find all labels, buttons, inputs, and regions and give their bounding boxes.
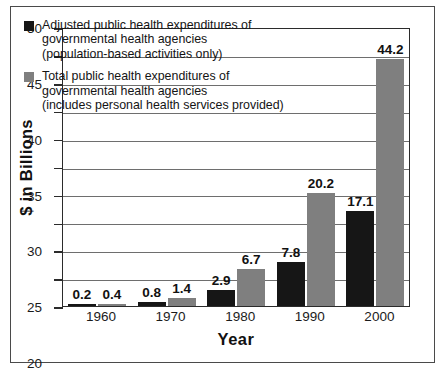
legend-swatch-icon bbox=[24, 72, 34, 82]
x-axis-tick-label: 1970 bbox=[156, 309, 186, 324]
y-axis-tick: 5 bbox=[54, 279, 63, 281]
x-axis-tick-label: 1980 bbox=[225, 309, 255, 324]
y-axis-tick: 25 bbox=[54, 168, 63, 170]
bar[interactable]: 0.8 bbox=[138, 302, 166, 306]
legend-label: Total public health expenditures ofgover… bbox=[42, 69, 284, 112]
bar-value-label: 1.4 bbox=[172, 281, 191, 296]
bar[interactable]: 6.7 bbox=[237, 269, 265, 306]
legend-entry[interactable]: Adjusted public health expenditures ofgo… bbox=[24, 18, 324, 61]
bar-value-label: 17.1 bbox=[347, 194, 373, 209]
y-axis-tick-label: 25 bbox=[27, 300, 42, 315]
bar[interactable]: 2.9 bbox=[207, 290, 235, 306]
y-axis-tick-label: 20 bbox=[27, 356, 42, 371]
bar[interactable]: 7.8 bbox=[277, 262, 305, 306]
y-axis-tick: 20 bbox=[54, 196, 63, 198]
bar-value-label: 2.9 bbox=[212, 273, 231, 288]
legend-label-line: (includes personal health services provi… bbox=[42, 98, 284, 112]
bar-value-label: 0.8 bbox=[142, 285, 161, 300]
bar[interactable]: 44.2 bbox=[376, 59, 404, 306]
legend-entry[interactable]: Total public health expenditures ofgover… bbox=[24, 69, 324, 112]
x-axis-tick-label: 1960 bbox=[86, 309, 116, 324]
bar-value-label: 20.2 bbox=[308, 176, 334, 191]
legend-label-line: (population-based activities only) bbox=[42, 47, 251, 61]
bar-value-label: 0.2 bbox=[73, 287, 92, 302]
chart-legend: Adjusted public health expenditures ofgo… bbox=[24, 18, 324, 120]
y-axis-tick-label: 30 bbox=[27, 244, 42, 259]
y-axis-tick-label: 40 bbox=[27, 132, 42, 147]
y-axis-tick: 30 bbox=[54, 140, 63, 142]
bar-value-label: 6.7 bbox=[242, 252, 261, 267]
bar-value-label: 7.8 bbox=[281, 245, 300, 260]
bar-value-label: 0.4 bbox=[103, 287, 122, 302]
legend-label-line: Adjusted public health expenditures of bbox=[42, 18, 251, 32]
bar[interactable]: 1.4 bbox=[168, 298, 196, 306]
bar[interactable]: 20.2 bbox=[307, 193, 335, 306]
legend-label: Adjusted public health expenditures ofgo… bbox=[42, 18, 251, 61]
x-axis-tick-labels: 19601970198019902000 bbox=[62, 309, 410, 329]
x-axis-title: Year bbox=[62, 330, 410, 349]
bar[interactable]: 0.4 bbox=[98, 304, 126, 306]
bar[interactable]: 0.2 bbox=[68, 304, 96, 306]
bar-group: 17.144.2 bbox=[341, 29, 411, 306]
bar-value-label: 44.2 bbox=[377, 42, 403, 57]
y-axis-tick: 10 bbox=[54, 251, 63, 253]
x-axis-tick-label: 1990 bbox=[295, 309, 325, 324]
legend-swatch-icon bbox=[24, 21, 34, 31]
chart-page: $ in Billions 05101520253035404550 0.20.… bbox=[0, 0, 447, 376]
x-axis-tick-label: 2000 bbox=[364, 309, 394, 324]
legend-label-line: governmental health agencies bbox=[42, 32, 251, 46]
y-axis-tick: 15 bbox=[54, 224, 63, 226]
bar[interactable]: 17.1 bbox=[346, 211, 374, 306]
legend-label-line: Total public health expenditures of bbox=[42, 69, 284, 83]
y-axis-tick-label: 35 bbox=[27, 188, 42, 203]
legend-label-line: governmental health agencies bbox=[42, 84, 284, 98]
